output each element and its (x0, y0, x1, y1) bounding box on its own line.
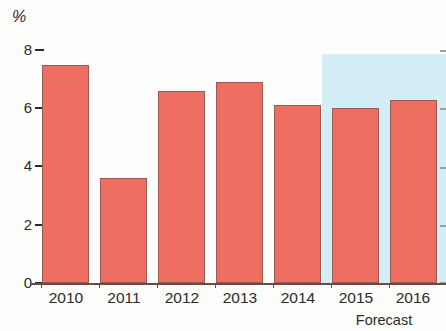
bar-2010[interactable] (42, 65, 89, 283)
bar-2013[interactable] (216, 82, 263, 283)
x-axis-tickmark (41, 283, 42, 288)
plot-area: 8 6 4 2 0 (0, 0, 446, 331)
x-axis-tickmark (273, 283, 274, 288)
y-axis-tick-4: 4 (8, 158, 44, 173)
y-axis-tick-dash (35, 49, 44, 51)
x-axis-tickmark (331, 283, 332, 288)
x-axis-label-2016: 2016 (380, 289, 446, 306)
y-axis-tick-8: 8 (8, 42, 44, 57)
bar-2012[interactable] (158, 91, 205, 283)
bar-2015[interactable] (332, 108, 379, 283)
x-axis-tickmark (157, 283, 158, 288)
y-axis-tick-label-4: 4 (24, 158, 32, 173)
forecast-caption: Forecast (322, 312, 446, 328)
bar-2016[interactable] (390, 100, 437, 283)
right-axis-tick (440, 50, 446, 52)
x-axis-tickmark (215, 283, 216, 288)
right-axis-tick (440, 225, 446, 227)
y-axis-tick-6: 6 (8, 100, 44, 115)
right-axis-tick (440, 167, 446, 169)
y-axis-tick-label-6: 6 (24, 100, 32, 115)
bar-2014[interactable] (274, 105, 321, 283)
x-axis-line (30, 283, 446, 285)
x-axis-tickmark (389, 283, 390, 288)
y-axis-tick-label-2: 2 (24, 217, 32, 232)
y-axis-tick-label-8: 8 (24, 42, 32, 57)
x-axis-tickmark (99, 283, 100, 288)
y-axis-tick-2: 2 (8, 217, 44, 232)
bar-2011[interactable] (100, 178, 147, 283)
bar-chart: % 8 6 4 2 0 (0, 0, 446, 331)
right-axis-tick (440, 108, 446, 110)
